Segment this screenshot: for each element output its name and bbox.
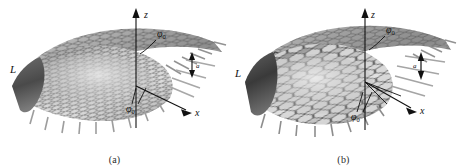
phi-lower-symbol: φ: [351, 111, 357, 122]
phi-upper-symbol: φ: [157, 28, 163, 39]
phi-upper-subscript: 0: [163, 33, 166, 40]
edge-bonds-right: [391, 56, 445, 96]
spacing-label: a: [413, 63, 417, 70]
length-label: L: [10, 64, 16, 75]
phi-upper-subscript: 0: [392, 29, 395, 36]
phi-lower-subscript: 0: [132, 108, 135, 115]
phi-upper-symbol: φ: [386, 24, 392, 35]
phi-lower-label: φ0: [351, 112, 360, 122]
phi-lower-subscript: 0: [357, 116, 360, 123]
figure-panels: z x L a φ0 φ0 (a): [0, 0, 458, 167]
panel-b-scene: z x L a φ0 φ0: [229, 0, 458, 142]
spacing-label: a: [196, 63, 200, 70]
x-axis-label: x: [420, 106, 424, 116]
spacing-arrow: [418, 52, 424, 80]
phi-upper-label: φ0: [157, 29, 166, 39]
phi-lower-symbol: φ: [126, 103, 132, 114]
panel-a: z x L a φ0 φ0 (a): [0, 0, 229, 167]
z-axis-label: z: [371, 10, 375, 20]
phi-upper-label: φ0: [386, 25, 395, 35]
panel-b: z x L a φ0 φ0 (b): [229, 0, 458, 167]
z-axis-label: z: [144, 10, 148, 20]
panel-a-caption: (a): [0, 154, 229, 165]
panel-a-scene: z x L a φ0 φ0: [0, 0, 229, 142]
phi-lower-label: φ0: [126, 104, 135, 114]
length-label: L: [235, 68, 241, 79]
x-axis-label: x: [195, 108, 199, 118]
panel-b-caption: (b): [229, 154, 458, 165]
